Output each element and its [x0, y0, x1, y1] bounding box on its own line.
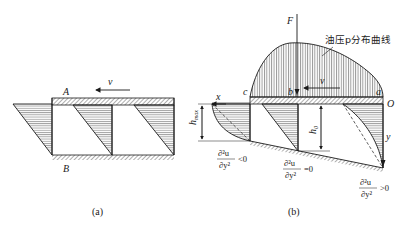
h-max-label: hmax — [187, 110, 199, 125]
force-label: F — [286, 15, 294, 26]
caption-a: (a) — [92, 206, 103, 218]
velocity-label-b: v — [320, 75, 325, 86]
condition-right: ∂²u ∂y² >0 — [359, 177, 389, 199]
svg-text:=0: =0 — [304, 164, 313, 174]
velocity-profile-right — [134, 105, 174, 155]
svg-text:∂²u: ∂²u — [218, 148, 230, 158]
svg-text:>0: >0 — [380, 183, 389, 193]
velocity-profile-middle-b — [262, 104, 298, 151]
svg-text:∂²u: ∂²u — [284, 158, 296, 168]
figure-b: F 油压p分布曲线 v c b a O x hmax — [187, 14, 394, 218]
slider-plate — [250, 97, 383, 104]
svg-text:∂y²: ∂y² — [361, 189, 372, 199]
svg-text:∂y²: ∂y² — [219, 160, 230, 170]
surface-b — [52, 155, 174, 160]
origin-label: O — [387, 98, 394, 109]
label-a: A — [62, 86, 70, 97]
caption-b: (b) — [288, 206, 300, 218]
h0-label: h0 — [307, 126, 319, 134]
condition-middle: ∂²u ∂y² =0 — [283, 158, 313, 180]
x-axis-label: x — [215, 91, 221, 102]
svg-text:<0: <0 — [238, 154, 247, 164]
condition-left: ∂²u ∂y² <0 — [217, 148, 247, 170]
figure-a: v A B (a) — [13, 76, 174, 218]
pressure-curve — [250, 43, 383, 97]
plate-a — [52, 98, 174, 105]
point-c: c — [243, 86, 248, 97]
svg-text:∂²u: ∂²u — [360, 177, 372, 187]
velocity-profile-left — [13, 104, 52, 155]
y-axis-label: y — [385, 131, 391, 142]
point-a: a — [376, 86, 381, 97]
velocity-profile-middle — [73, 105, 112, 155]
lubrication-velocity-diagram: v A B (a) F 油压p分布曲线 v c b a O — [0, 0, 403, 232]
pressure-curve-label: 油压p分布曲线 — [325, 34, 391, 45]
velocity-label: v — [108, 76, 113, 87]
label-b: B — [63, 163, 69, 174]
point-b: b — [288, 86, 293, 97]
svg-text:∂y²: ∂y² — [285, 170, 296, 180]
